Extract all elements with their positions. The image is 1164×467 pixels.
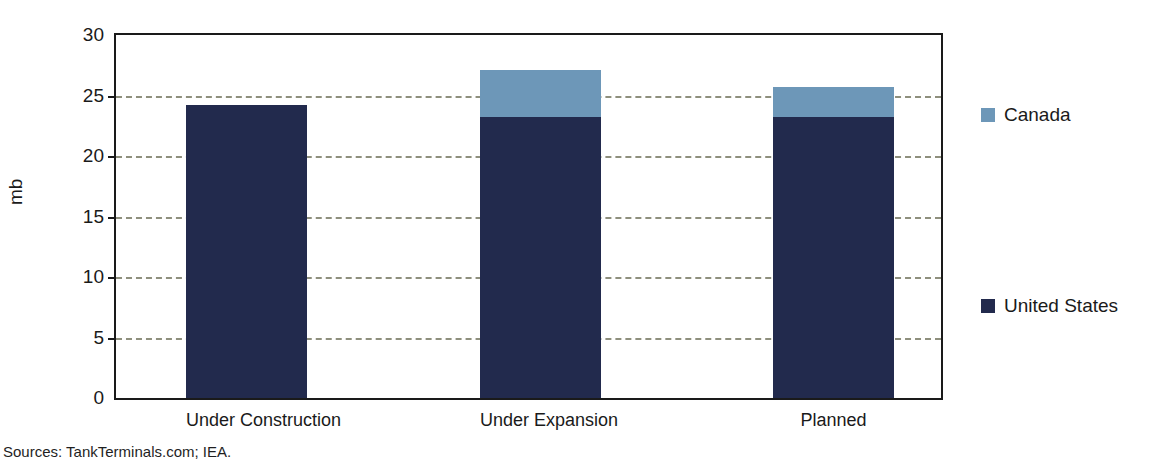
legend-swatch-canada: [981, 108, 995, 122]
bar-group-0[interactable]: [186, 105, 307, 398]
y-axis-tick-15: [108, 217, 116, 219]
y-axis-tick-labels: 302520151050: [40, 33, 104, 400]
y-axis-tick-label-15: 15: [44, 206, 104, 228]
y-axis-tick-label-20: 20: [44, 145, 104, 167]
y-axis-tick-label-0: 0: [44, 387, 104, 409]
x-axis-label-2: Planned: [773, 410, 894, 431]
bar-segment-planned-canada[interactable]: [773, 87, 894, 117]
bar-segment-under-expansion-canada[interactable]: [480, 70, 601, 117]
source-note: Sources: TankTerminals.com; IEA.: [3, 443, 231, 460]
x-axis-label-1: Under Expansion: [480, 410, 601, 431]
bar-group-1[interactable]: [480, 70, 601, 398]
bar-group-2[interactable]: [773, 87, 894, 398]
bar-segment-under-construction-united-states[interactable]: [186, 105, 307, 398]
legend-swatch-united-states: [981, 299, 995, 313]
y-axis-tick-20: [108, 156, 116, 158]
legend-label-canada: Canada: [1004, 104, 1071, 126]
legend-label-united-states: United States: [1004, 295, 1118, 317]
bar-segment-under-expansion-united-states[interactable]: [480, 117, 601, 398]
y-axis-tick-label-5: 5: [44, 327, 104, 349]
legend-item-canada[interactable]: Canada: [981, 104, 1071, 126]
y-axis-tick-25: [108, 96, 116, 98]
legend-item-united-states[interactable]: United States: [981, 295, 1118, 317]
bar-segment-planned-united-states[interactable]: [773, 117, 894, 398]
y-axis-tick-label-30: 30: [44, 24, 104, 46]
chart-title-clipped: Crude Oil Storage Capacity Additions in …: [0, 0, 1164, 6]
y-axis-title: mb: [5, 179, 27, 205]
chart-figure: Crude Oil Storage Capacity Additions in …: [0, 0, 1164, 467]
plot-area: [114, 33, 943, 400]
y-axis-tick-10: [108, 277, 116, 279]
x-axis-label-0: Under Construction: [186, 410, 307, 431]
y-axis-tick-5: [108, 338, 116, 340]
y-axis-tick-label-10: 10: [44, 266, 104, 288]
y-axis-tick-label-25: 25: [44, 85, 104, 107]
